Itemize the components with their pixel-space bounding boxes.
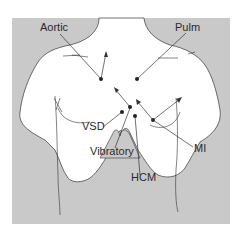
label-pulm: Pulm bbox=[175, 22, 200, 33]
vsd-point bbox=[120, 110, 124, 114]
label-aortic: Aortic bbox=[40, 22, 68, 33]
label-hcm: HCM bbox=[131, 172, 156, 183]
label-mi: MI bbox=[194, 143, 206, 154]
label-vibratory: Vibratory bbox=[90, 146, 134, 157]
pulm-point bbox=[135, 77, 139, 81]
chest-diagram bbox=[0, 0, 237, 235]
hcm-point bbox=[133, 114, 137, 118]
label-vsd: VSD bbox=[82, 121, 105, 132]
